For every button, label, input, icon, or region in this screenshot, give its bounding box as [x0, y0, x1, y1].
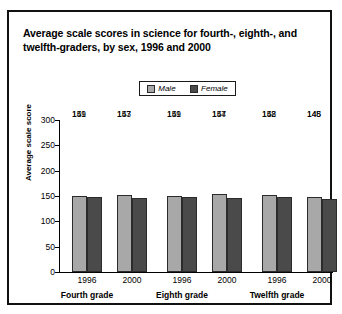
- y-tick-label: 300: [29, 115, 55, 125]
- bar-value-label: 149: [163, 109, 185, 119]
- plot-area: Average scale score 300 250 200 150 100 …: [9, 12, 334, 307]
- y-tick-label: 50: [29, 242, 55, 252]
- bar-value-label: 147: [208, 109, 230, 119]
- y-axis-tickmark: [55, 120, 59, 121]
- y-tick-label: 100: [29, 216, 55, 226]
- y-tick-label: 150: [29, 191, 55, 201]
- x-group-label-twelfth-grade: Twelfth grade: [227, 290, 327, 300]
- y-axis-tickmark: [55, 247, 59, 248]
- bar-value-label: 149: [68, 109, 90, 119]
- x-group-label-fourth-grade: Fourth grade: [37, 290, 137, 300]
- bar-female[interactable]: 149: [182, 197, 197, 273]
- bar-pair: 148 145: [307, 120, 337, 272]
- bar-value-label: 148: [258, 109, 280, 119]
- bar-pair: 151 149: [72, 120, 102, 272]
- bar-pair: 151 149: [167, 120, 197, 272]
- bar-female[interactable]: 149: [87, 197, 102, 273]
- bars-container: 151 149 153 147 151: [60, 120, 333, 272]
- bar-male[interactable]: 151: [167, 196, 182, 273]
- x-tick-label-year: 2000: [299, 275, 342, 285]
- bar-female[interactable]: 145: [322, 199, 337, 273]
- y-tick-label: 0: [29, 267, 55, 277]
- bar-value-label: 147: [113, 109, 135, 119]
- x-tick-label-year: 2000: [109, 275, 155, 285]
- chart-frame: Average scale scores in science for four…: [7, 10, 332, 305]
- bar-value-label: 145: [303, 109, 325, 119]
- bar-pair: 152 148: [262, 120, 292, 272]
- y-tick-label: 250: [29, 140, 55, 150]
- y-axis-tickmark: [55, 221, 59, 222]
- bar-female[interactable]: 148: [277, 197, 292, 272]
- y-axis-tick-labels: 300 250 200 150 100 50 0: [27, 12, 55, 307]
- x-group-label-eighth-grade: Eighth grade: [132, 290, 232, 300]
- bar-male[interactable]: 151: [72, 196, 87, 273]
- bar-pair: 153 147: [117, 120, 147, 272]
- bar-pair: 154 147: [212, 120, 242, 272]
- x-tick-label-year: 1996: [254, 275, 300, 285]
- bar-male[interactable]: 154: [212, 194, 227, 272]
- x-tick-label-year: 2000: [204, 275, 250, 285]
- bar-female[interactable]: 147: [227, 198, 242, 273]
- x-tick-label-year: 1996: [159, 275, 205, 285]
- y-axis-tickmark: [55, 171, 59, 172]
- bar-male[interactable]: 152: [262, 195, 277, 272]
- y-axis-tickmark: [55, 145, 59, 146]
- x-tick-label-year: 1996: [64, 275, 110, 285]
- y-tick-label: 200: [29, 166, 55, 176]
- bar-female[interactable]: 147: [132, 198, 147, 273]
- x-axis-line: [59, 272, 333, 273]
- y-axis-tickmark: [55, 196, 59, 197]
- bar-male[interactable]: 148: [307, 197, 322, 272]
- bar-male[interactable]: 153: [117, 195, 132, 273]
